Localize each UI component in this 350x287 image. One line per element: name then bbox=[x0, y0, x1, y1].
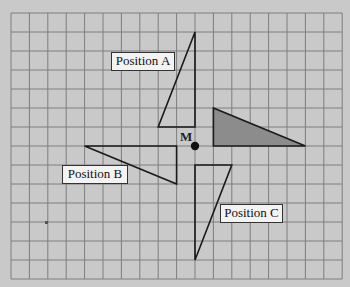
center-point-m bbox=[191, 142, 199, 150]
label-position-a: Position A bbox=[111, 52, 175, 71]
scan-artifact bbox=[45, 221, 48, 224]
label-position-c: Position C bbox=[220, 204, 283, 223]
label-position-b: Position B bbox=[62, 165, 128, 184]
rotation-diagram: M Position A Position B Position C bbox=[0, 0, 350, 287]
grid-paper bbox=[0, 0, 350, 287]
center-label: M bbox=[180, 130, 192, 143]
